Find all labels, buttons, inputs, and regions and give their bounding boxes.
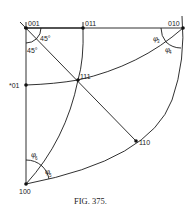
label-phi5-sub: 5 [49, 173, 52, 178]
point-101 [24, 83, 28, 87]
point-110 [134, 139, 138, 143]
angle-arc-phi6 [26, 160, 42, 166]
label-angle-45-top: 45° [40, 35, 51, 42]
label-110: 110 [139, 139, 150, 146]
label-angle-45-left: 45° [27, 47, 38, 54]
figure-caption: FIG. 375. [74, 196, 107, 206]
label-010: 010 [168, 20, 180, 27]
point-100 [24, 182, 28, 186]
label-phi6-sub: 6 [35, 156, 38, 161]
stereographic-projection-diagram: 001 011 010 111 *01 110 100 45° 45° φ 3 … [0, 0, 192, 214]
point-010 [181, 26, 185, 30]
angle-arc-phi3 [161, 28, 166, 42]
angle-arc-45-left [26, 39, 37, 43]
label-100: 100 [19, 188, 31, 195]
label-phi4-sub: 4 [169, 50, 172, 55]
label-phi3-sub: 3 [157, 39, 160, 44]
label-111: 111 [80, 73, 91, 80]
label-001: 001 [28, 20, 40, 27]
label-101: *01 [9, 82, 20, 89]
label-011: 011 [85, 20, 96, 27]
